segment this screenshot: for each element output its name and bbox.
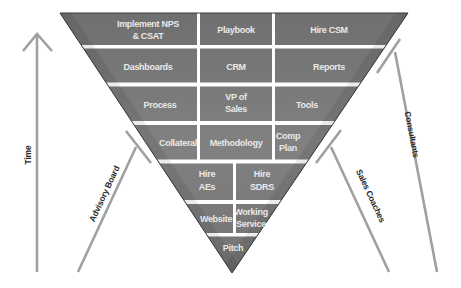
- time-label: Time: [23, 145, 33, 164]
- svg-text:AEs: AEs: [199, 182, 216, 192]
- svg-text:SDRS: SDRS: [250, 182, 274, 192]
- svg-text:Dashboards: Dashboards: [123, 62, 172, 72]
- support-line: [395, 52, 437, 272]
- svg-text:Implement NPS: Implement NPS: [117, 19, 179, 29]
- cell-tools: Tools: [296, 100, 318, 110]
- svg-text:Service: Service: [236, 219, 266, 229]
- svg-text:Process: Process: [144, 100, 177, 110]
- svg-text:Sales: Sales: [225, 104, 247, 114]
- cell-collateral: Collateral: [159, 138, 197, 148]
- pyramid-diagram: Time: [0, 0, 461, 288]
- consultants-label: Consultants: [403, 110, 422, 158]
- svg-text:Hire: Hire: [199, 169, 216, 179]
- cell-methodology: Methodology: [210, 138, 263, 148]
- support-consultants: Consultants: [377, 39, 437, 272]
- svg-text:Playbook: Playbook: [217, 25, 256, 35]
- cell-hire-csm: Hire CSM: [310, 25, 348, 35]
- svg-text:Website: Website: [200, 214, 233, 224]
- cell-reports: Reports: [313, 62, 345, 72]
- svg-text:& CSAT: & CSAT: [132, 31, 164, 41]
- cell-website: Website: [200, 214, 233, 224]
- svg-text:Plan: Plan: [279, 143, 297, 153]
- svg-text:Reports: Reports: [313, 62, 345, 72]
- svg-text:Hire CSM: Hire CSM: [310, 25, 348, 35]
- cell-dashboards: Dashboards: [123, 62, 172, 72]
- svg-text:Pitch: Pitch: [223, 243, 244, 253]
- time-axis: Time: [23, 34, 52, 272]
- svg-text:VP of: VP of: [225, 92, 248, 102]
- svg-text:Hire: Hire: [254, 169, 271, 179]
- svg-text:Collateral: Collateral: [159, 138, 197, 148]
- support-advisory-board: Advisory Board: [78, 131, 151, 272]
- svg-text:Tools: Tools: [296, 100, 318, 110]
- support-sales-coaches: Sales Coaches: [316, 130, 389, 272]
- cell-playbook: Playbook: [217, 25, 256, 35]
- cell-process: Process: [144, 100, 177, 110]
- support-line: [78, 147, 136, 272]
- svg-text:Working: Working: [234, 207, 268, 217]
- cell-pitch: Pitch: [223, 243, 244, 253]
- cell-crm: CRM: [226, 62, 246, 72]
- svg-text:Methodology: Methodology: [210, 138, 263, 148]
- svg-text:Comp: Comp: [276, 131, 301, 141]
- svg-text:CRM: CRM: [226, 62, 246, 72]
- sales-coaches-label: Sales Coaches: [354, 168, 388, 225]
